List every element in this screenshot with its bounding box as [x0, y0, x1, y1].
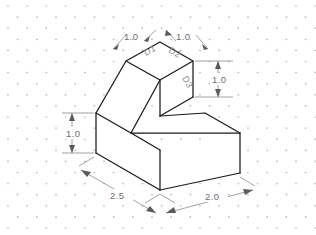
grid-dot [151, 216, 153, 218]
grid-dot [266, 61, 268, 63]
grid-dot [266, 172, 268, 174]
grid-dot [65, 72, 67, 74]
grid-dot [238, 205, 240, 207]
grid-dot [295, 27, 297, 29]
dim-top-left-arrow-a [113, 44, 119, 50]
grid-dot [286, 105, 288, 107]
grid-dot [276, 227, 278, 229]
grid-dot [26, 72, 28, 74]
grid-dot [276, 138, 278, 140]
grid-dot [180, 5, 182, 7]
dim-top-left-arrow-b [144, 36, 150, 42]
grid-dot [55, 38, 57, 40]
grid-dot [305, 83, 307, 85]
grid-dot [218, 5, 220, 7]
grid-dot [94, 38, 96, 40]
grid-dot [305, 216, 307, 218]
grid-dot [84, 50, 86, 52]
grid-dot [190, 105, 192, 107]
grid-dot [55, 61, 57, 63]
dim-bl-arrow-a [81, 170, 91, 177]
grid-dot [209, 38, 211, 40]
grid-dot [84, 94, 86, 96]
grid-dot [266, 216, 268, 218]
grid-dot [151, 38, 153, 40]
grid-dot [94, 16, 96, 18]
grid-dot [180, 138, 182, 140]
grid-dot [238, 72, 240, 74]
grid-dot [161, 27, 163, 29]
grid-dot [132, 216, 134, 218]
grid-dot [26, 138, 28, 140]
grid-dot [26, 183, 28, 185]
grid-dot [305, 194, 307, 196]
grid-dot [122, 27, 124, 29]
grid-dot [94, 149, 96, 151]
grid-dot [26, 50, 28, 52]
grid-dot [7, 161, 9, 163]
grid-dot [276, 72, 278, 74]
grid-dot [7, 50, 9, 52]
grid-dot [247, 16, 249, 18]
grid-dot [17, 149, 19, 151]
grid-dot [266, 194, 268, 196]
grid-dot [199, 138, 201, 140]
grid-dot [122, 50, 124, 52]
grid-dot [142, 5, 144, 7]
grid-dot [161, 5, 163, 7]
grid-dot [247, 216, 249, 218]
grid-dot [74, 83, 76, 85]
grid-dot [7, 116, 9, 118]
grid-dot [84, 183, 86, 185]
grid-dot [199, 227, 201, 229]
grid-dot [113, 216, 115, 218]
dimension-right-vertical: 1.0 [195, 61, 233, 97]
grid-dot [190, 16, 192, 18]
grid-dot [132, 16, 134, 18]
grid-dot [74, 105, 76, 107]
grid-dot [257, 161, 259, 163]
grid-dot [218, 227, 220, 229]
grid-dot [238, 183, 240, 185]
grid-dot [276, 5, 278, 7]
grid-dot [36, 38, 38, 40]
grid-dot [65, 94, 67, 96]
grid-dot [286, 216, 288, 218]
grid-dot [103, 161, 105, 163]
grid-dot [199, 183, 201, 185]
grid-dot [286, 149, 288, 151]
grid-dot [122, 5, 124, 7]
grid-dot [295, 50, 297, 52]
grid-dot [295, 138, 297, 140]
grid-dot [36, 172, 38, 174]
grid-dot [26, 5, 28, 7]
grid-dot [314, 161, 316, 163]
grid-dot [305, 127, 307, 129]
grid-dot [46, 94, 48, 96]
grid-dot [247, 61, 249, 63]
grid-dot [103, 205, 105, 207]
grid-dot [46, 50, 48, 52]
grid-dot [36, 149, 38, 151]
grid-dot [26, 227, 28, 229]
grid-dot [286, 172, 288, 174]
grid-dot [113, 172, 115, 174]
grid-dot [94, 127, 96, 129]
grid-dot [65, 205, 67, 207]
grid-dot [209, 105, 211, 107]
dim-top-left-value: 1.0 [124, 31, 138, 42]
grid-dot [84, 205, 86, 207]
grid-dot [26, 94, 28, 96]
grid-dot [266, 38, 268, 40]
grid-dot [238, 27, 240, 29]
grid-dot [46, 5, 48, 7]
grid-dot [257, 183, 259, 185]
grid-dot [295, 183, 297, 185]
grid-dot [238, 227, 240, 229]
grid-dot [161, 138, 163, 140]
grid-dot [257, 205, 259, 207]
grid-dot [17, 16, 19, 18]
grid-dot [190, 216, 192, 218]
grid-dot [55, 194, 57, 196]
dimension-left-vertical: 1.0 [62, 113, 94, 153]
